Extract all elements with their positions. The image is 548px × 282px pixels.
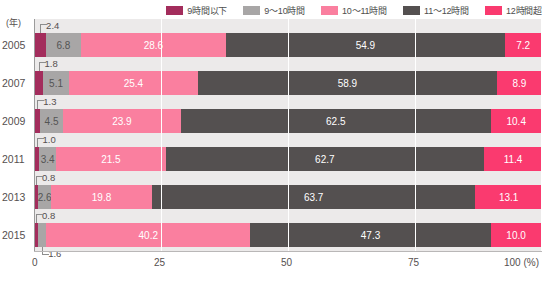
- legend-item-3[interactable]: 10～11時間: [321, 4, 387, 17]
- legend-item-2[interactable]: 9～10時間: [243, 4, 305, 17]
- callout-leader-line: [40, 26, 41, 33]
- bar-segment[interactable]: 62.7: [166, 147, 485, 171]
- callout-leader-line: [37, 102, 38, 109]
- gridline: [288, 19, 289, 251]
- legend-swatch-icon: [403, 6, 420, 15]
- bar-segment[interactable]: 8.9: [497, 71, 542, 95]
- year-axis-label: 2013: [2, 191, 32, 203]
- bar-segment[interactable]: 25.4: [69, 71, 198, 95]
- legend-label: 12時間超: [506, 4, 542, 17]
- bar-segment[interactable]: 10.0: [491, 223, 542, 247]
- segment-callout-label: 0.8: [42, 210, 55, 221]
- x-axis-tick-label: 100 (%): [504, 257, 539, 268]
- bar-segment[interactable]: 28.6: [81, 33, 226, 57]
- bar-segment[interactable]: 62.5: [181, 109, 490, 133]
- x-axis-tick-label: 0: [32, 257, 38, 268]
- bar-segment[interactable]: [34, 71, 43, 95]
- x-axis-ticks: 0255075100 (%): [0, 252, 548, 272]
- bar-segment[interactable]: 4.5: [40, 109, 62, 133]
- bar-segment[interactable]: 2.6: [38, 185, 51, 209]
- bar-segment[interactable]: 5.1: [43, 71, 69, 95]
- bar-segment[interactable]: 3.4: [39, 147, 56, 171]
- year-axis-label: 2005: [2, 39, 32, 51]
- bar-segment[interactable]: 40.2: [46, 223, 250, 247]
- gridline: [161, 19, 162, 251]
- callout-bracket-icon: [36, 214, 43, 222]
- legend-swatch-icon: [321, 6, 338, 15]
- bar-segment[interactable]: [34, 33, 46, 57]
- chart-legend: 9時間以下9～10時間10～11時間11～12時間12時間超: [0, 3, 548, 17]
- segment-callout-label: 1.8: [45, 58, 58, 69]
- callout-leader-line: [36, 216, 37, 223]
- bar-segment[interactable]: 54.9: [226, 33, 505, 57]
- chart-container: 9時間以下9～10時間10～11時間11～12時間12時間超 2.46.828.…: [0, 0, 548, 282]
- legend-label: 11～12時間: [424, 4, 469, 17]
- callout-leader-line: [37, 140, 38, 147]
- gridline: [415, 19, 416, 251]
- bar-segment[interactable]: 11.4: [484, 147, 542, 171]
- segment-callout-label: 0.8: [42, 172, 55, 183]
- gridline: [541, 19, 542, 251]
- callout-leader-line: [36, 178, 37, 185]
- year-axis-label: 2007: [2, 77, 32, 89]
- legend-swatch-icon: [243, 6, 260, 15]
- year-axis-label: 2015: [2, 229, 32, 241]
- bar-segment[interactable]: 63.7: [152, 185, 476, 209]
- segment-callout-label: 1.3: [43, 96, 56, 107]
- legend-swatch-icon: [166, 6, 183, 15]
- legend-label: 9～10時間: [264, 4, 305, 17]
- year-axis-column: (年) 200520072009201120132015: [0, 19, 34, 251]
- legend-label: 9時間以下: [187, 4, 227, 17]
- bar-segment[interactable]: [38, 223, 46, 247]
- year-axis-label: 2009: [2, 115, 32, 127]
- legend-item-4[interactable]: 11～12時間: [403, 4, 469, 17]
- x-axis-tick-label: 25: [154, 257, 165, 268]
- legend-swatch-icon: [485, 6, 502, 15]
- bar-segment[interactable]: 47.3: [250, 223, 490, 247]
- bar-segment[interactable]: 13.1: [475, 185, 542, 209]
- bar-segment[interactable]: 19.8: [51, 185, 152, 209]
- bar-segment[interactable]: 23.9: [63, 109, 181, 133]
- bar-segment[interactable]: 58.9: [198, 71, 497, 95]
- segment-callout-label: 2.4: [46, 20, 59, 31]
- callout-bracket-icon: [40, 24, 47, 32]
- bar-segment[interactable]: 10.4: [491, 109, 542, 133]
- bar-segment[interactable]: 7.2: [505, 33, 542, 57]
- callout-leader-line: [39, 64, 40, 71]
- segment-callout-label: 1.0: [43, 134, 56, 145]
- x-axis-tick-label: 75: [408, 257, 419, 268]
- legend-item-5[interactable]: 12時間超: [485, 4, 542, 17]
- x-axis-tick-label: 50: [281, 257, 292, 268]
- callout-bracket-icon: [37, 100, 44, 108]
- bar-segment[interactable]: 21.5: [56, 147, 165, 171]
- callout-bracket-icon: [39, 62, 46, 70]
- year-axis-unit-label: (年): [6, 16, 21, 29]
- legend-item-1[interactable]: 9時間以下: [166, 4, 227, 17]
- callout-bracket-icon: [36, 176, 43, 184]
- year-axis-label: 2011: [2, 153, 32, 165]
- callout-bracket-icon: [37, 138, 44, 146]
- plot-area: 2.46.828.654.97.21.85.125.458.98.91.34.5…: [34, 19, 542, 251]
- bar-segment[interactable]: 6.8: [46, 33, 81, 57]
- y-axis-line: [34, 19, 35, 251]
- legend-label: 10～11時間: [342, 4, 387, 17]
